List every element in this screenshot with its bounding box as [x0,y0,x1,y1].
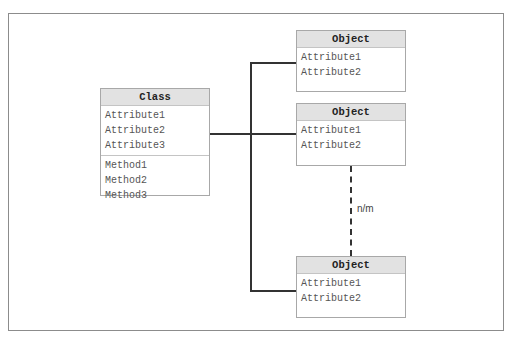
object-attributes: Attribute1 Attribute2 [297,121,405,155]
diagram-frame [8,13,504,331]
object-attribute: Attribute1 [301,123,401,138]
class-attribute: Attribute1 [105,108,205,123]
class-method: Method1 [105,158,205,173]
dashed-association-line [350,166,352,256]
multiplicity-label: n/m [357,203,374,214]
class-attribute: Attribute2 [105,123,205,138]
class-method: Method2 [105,173,205,188]
class-box[interactable]: Class Attribute1 Attribute2 Attribute3 M… [100,88,210,196]
object-box-3[interactable]: Object Attribute1 Attribute2 [296,256,406,318]
class-method: Method3 [105,188,205,203]
object-title: Object [297,257,405,274]
class-title: Class [101,89,209,106]
connector-trunk-to-object-1 [250,62,296,64]
object-attribute: Attribute1 [301,50,401,65]
object-title: Object [297,31,405,48]
object-box-1[interactable]: Object Attribute1 Attribute2 [296,30,406,92]
object-attribute: Attribute2 [301,65,401,80]
object-title: Object [297,104,405,121]
object-attributes: Attribute1 Attribute2 [297,48,405,82]
connector-trunk-vertical [250,62,252,291]
object-attribute: Attribute2 [301,138,401,153]
connector-class-to-trunk [210,133,296,135]
object-attribute: Attribute1 [301,276,401,291]
class-methods: Method1 Method2 Method3 [101,155,209,205]
object-attribute: Attribute2 [301,291,401,306]
object-box-2[interactable]: Object Attribute1 Attribute2 [296,103,406,166]
class-attribute: Attribute3 [105,138,205,153]
class-attributes: Attribute1 Attribute2 Attribute3 [101,106,209,155]
object-attributes: Attribute1 Attribute2 [297,274,405,308]
connector-trunk-to-object-3 [250,290,296,292]
